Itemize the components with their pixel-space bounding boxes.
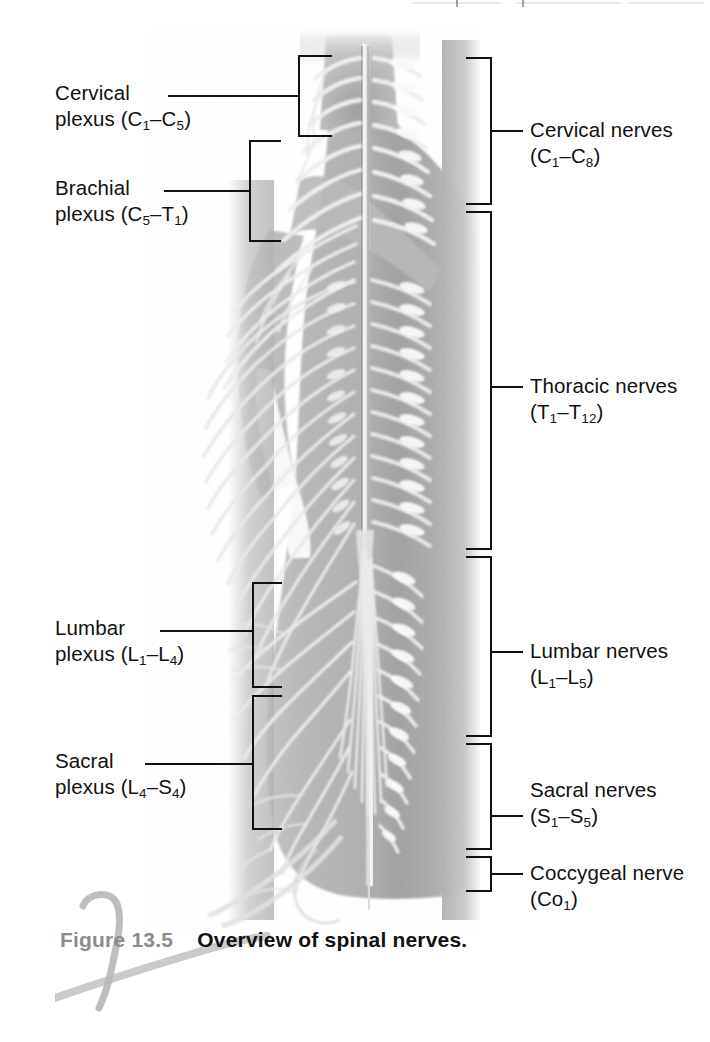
sacral-nerves-leader-line xyxy=(490,815,523,817)
sacral-plexus-line1: Sacral xyxy=(55,749,114,772)
coccygeal-nerve-line1: Coccygeal nerve xyxy=(530,861,684,884)
label-lumbar-plexus: Lumbar plexus (L1–L4) xyxy=(55,615,184,670)
label-lumbar-nerves: Lumbar nerves (L1–L5) xyxy=(530,638,668,693)
thoracic-nerves-bracket-bottom-arm xyxy=(466,548,492,550)
label-cervical-nerves: Cervical nerves (C1–C8) xyxy=(530,117,673,172)
sacral-nerves-bracket-bottom-arm xyxy=(466,848,492,850)
sacral-nerves-bracket-top-arm xyxy=(466,743,492,745)
brachial-plexus-bracket-top-arm xyxy=(249,140,281,142)
coccygeal-nerve-leader-line xyxy=(490,873,523,875)
thoracic-nerves-line1: Thoracic nerves xyxy=(530,374,677,397)
cervical-nerves-line1: Cervical nerves xyxy=(530,118,673,141)
label-sacral-plexus: Sacral plexus (L4–S4) xyxy=(55,748,187,803)
lumbar-plexus-bracket-top-arm xyxy=(252,582,282,584)
cervical-plexus-line1: Cervical xyxy=(55,81,130,104)
cervical-plexus-bracket-bottom-arm xyxy=(298,135,332,137)
scan-artifact xyxy=(516,2,622,4)
label-sacral-nerves: Sacral nerves (S1–S5) xyxy=(530,777,657,832)
label-cervical-plexus: Cervical plexus (C1–C5) xyxy=(55,80,191,135)
sacral-nerves-line1: Sacral nerves xyxy=(530,778,657,801)
cervical-nerves-bracket-top-arm xyxy=(466,57,492,59)
lumbar-nerves-leader-line xyxy=(490,651,523,653)
sacral-nerves-line2: (S1–S5) xyxy=(530,803,657,832)
cervical-plexus-bracket-top-arm xyxy=(298,55,332,57)
figure-page: Cervical plexus (C1–C5) Brachial plexus … xyxy=(0,0,710,1042)
label-thoracic-nerves: Thoracic nerves (T1–T12) xyxy=(530,373,677,428)
coccygeal-nerve-bracket-top-arm xyxy=(466,856,492,858)
thoracic-nerves-leader-line xyxy=(490,386,523,388)
thoracic-nerves-bracket-spine xyxy=(490,211,492,550)
sacral-plexus-bracket-bottom-arm xyxy=(252,828,282,830)
figure-caption-text: Overview of spinal nerves. xyxy=(197,928,467,951)
lumbar-nerves-line1: Lumbar nerves xyxy=(530,639,668,662)
lumbar-nerves-bracket-bottom-arm xyxy=(466,735,492,737)
lumbar-nerves-bracket-top-arm xyxy=(466,556,492,558)
brachial-plexus-line2: plexus (C5–T1) xyxy=(55,201,189,230)
scan-artifact xyxy=(522,0,524,7)
cervical-nerves-leader-line xyxy=(490,130,523,132)
coccygeal-nerve-bracket-bottom-arm xyxy=(466,890,492,892)
label-coccygeal-nerve: Coccygeal nerve (Co1) xyxy=(530,860,684,915)
sacral-plexus-bracket-top-arm xyxy=(252,695,282,697)
sacral-nerves-bracket-spine xyxy=(490,743,492,850)
lumbar-plexus-bracket-spine xyxy=(252,582,254,688)
lumbar-plexus-line1: Lumbar xyxy=(55,616,125,639)
brachial-plexus-line1: Brachial xyxy=(55,176,130,199)
lumbar-plexus-bracket-bottom-arm xyxy=(252,686,282,688)
figure-number: Figure 13.5 xyxy=(60,928,173,951)
label-brachial-plexus: Brachial plexus (C5–T1) xyxy=(55,175,189,230)
lumbar-plexus-line2: plexus (L1–L4) xyxy=(55,641,184,670)
scan-artifact xyxy=(628,2,704,4)
cervical-nerves-line2: (C1–C8) xyxy=(530,143,673,172)
lumbar-nerves-line2: (L1–L5) xyxy=(530,664,668,693)
thoracic-nerves-line2: (T1–T12) xyxy=(530,399,677,428)
cervical-plexus-line2: plexus (C1–C5) xyxy=(55,106,191,135)
spinal-nerves-illustration xyxy=(150,30,480,930)
cervical-nerves-bracket-bottom-arm xyxy=(466,203,492,205)
sacral-plexus-line2: plexus (L4–S4) xyxy=(55,774,187,803)
scan-artifact xyxy=(456,0,458,7)
brachial-plexus-bracket-bottom-arm xyxy=(249,240,281,242)
coccygeal-nerve-line2: (Co1) xyxy=(530,886,684,915)
thoracic-nerves-bracket-top-arm xyxy=(466,211,492,213)
lumbar-nerves-bracket-spine xyxy=(490,556,492,737)
figure-caption: Figure 13.5 Overview of spinal nerves. xyxy=(60,928,467,952)
